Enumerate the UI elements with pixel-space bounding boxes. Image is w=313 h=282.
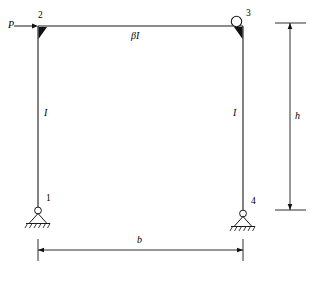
width-dimension-label: b (137, 235, 142, 245)
left-column-stiffness-label: I (44, 108, 47, 118)
height-dimension-line (275, 23, 306, 210)
beam-stiffness-label: βI (131, 31, 139, 41)
frame-diagram-canvas (0, 0, 313, 282)
frame-diagram-figure: P 2 3 1 4 βI I I h b (0, 0, 313, 282)
support-1-pinned-icon (25, 207, 50, 228)
frame-members (38, 26, 243, 211)
node-label-4: 4 (251, 197, 256, 207)
node-label-2: 2 (38, 11, 43, 21)
height-dimension-label: h (295, 111, 300, 121)
node-label-3: 3 (246, 9, 251, 19)
right-column-stiffness-label: I (233, 108, 236, 118)
support-4-pinned-icon (230, 210, 255, 231)
joint-2-gusset-icon (39, 27, 48, 39)
load-label-p: P (8, 20, 14, 30)
joint-3-hinge-icon (231, 16, 241, 26)
load-p-arrow-icon (14, 23, 38, 28)
node-label-1: 1 (46, 194, 51, 204)
joint-3-gusset-icon (234, 27, 243, 39)
